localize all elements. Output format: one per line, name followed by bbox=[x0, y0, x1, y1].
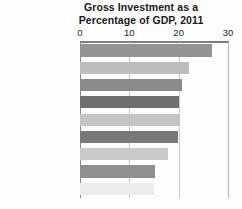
bar-chart-figure: Gross Investment as a Percentage of GDP,… bbox=[0, 0, 242, 209]
bar-united-kingdom bbox=[80, 183, 154, 195]
bar-row: Germany bbox=[80, 146, 228, 163]
gridline-30 bbox=[228, 42, 229, 198]
bar-japan bbox=[80, 79, 182, 91]
x-tick-label-20: 20 bbox=[173, 27, 184, 38]
bar-united-states bbox=[80, 165, 155, 177]
bar-south-korea bbox=[80, 44, 212, 56]
bar-row: South Korea bbox=[80, 42, 228, 59]
chart-title-line-1: Gross Investment as a bbox=[46, 1, 236, 14]
bar-row: Japan bbox=[80, 77, 228, 94]
bar-row: Italy bbox=[80, 129, 228, 146]
bar-germany bbox=[80, 148, 168, 160]
bar-row: United Kingdom bbox=[80, 180, 228, 197]
bar-row: Mexico bbox=[80, 94, 228, 111]
bar-row: United States bbox=[80, 163, 228, 180]
bar-row: France bbox=[80, 111, 228, 128]
bar-france bbox=[80, 114, 179, 126]
bar-row: Canada bbox=[80, 59, 228, 76]
bar-canada bbox=[80, 62, 189, 74]
x-tick-label-0: 0 bbox=[77, 27, 82, 38]
chart-title: Gross Investment as a Percentage of GDP,… bbox=[46, 1, 236, 26]
plot-area: South KoreaCanadaJapanMexicoFranceItalyG… bbox=[80, 42, 228, 198]
bar-italy bbox=[80, 131, 178, 143]
bar-mexico bbox=[80, 96, 179, 108]
chart-title-line-2: Percentage of GDP, 2011 bbox=[46, 14, 236, 27]
x-tick-label-30: 30 bbox=[223, 27, 234, 38]
x-tick-label-10: 10 bbox=[124, 27, 135, 38]
